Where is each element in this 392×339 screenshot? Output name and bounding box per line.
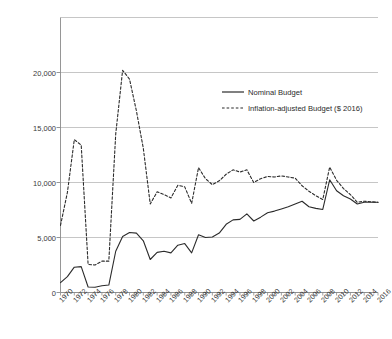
y-axis-tick-label: 15,000	[16, 123, 56, 132]
y-axis-tick-label: 20,000	[16, 68, 56, 77]
chart-legend: Nominal BudgetInflation-adjusted Budget …	[222, 88, 363, 113]
gridlines	[61, 18, 379, 293]
y-axis-tick-label: 5,000	[16, 233, 56, 242]
series-line-2	[61, 70, 379, 265]
legend-label-2: Inflation-adjusted Budget ($ 2016)	[248, 104, 363, 113]
y-axis-tick-labels: 05,00010,00015,00020,000	[12, 0, 56, 339]
x-axis-ticks	[61, 293, 379, 296]
y-axis-tick-label: 0	[16, 288, 56, 297]
y-axis-tick-label: 10,000	[16, 178, 56, 187]
series-line-1	[61, 180, 379, 287]
legend-label-1: Nominal Budget	[248, 88, 303, 97]
y-axis-ticks	[57, 73, 61, 293]
axis-lines	[61, 18, 379, 293]
